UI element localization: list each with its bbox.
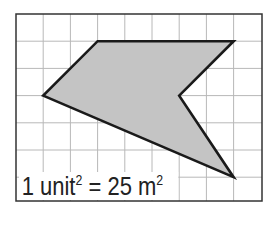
scale-label-value: = 25 m: [82, 172, 156, 200]
shaded-polygon: [43, 41, 233, 177]
scale-label: 1 unit2 = 25 m2: [19, 172, 178, 200]
scale-label-exponent: 2: [75, 172, 82, 188]
scale-label-unit: 1 unit: [22, 172, 76, 200]
scale-label-exponent-2: 2: [156, 172, 163, 188]
